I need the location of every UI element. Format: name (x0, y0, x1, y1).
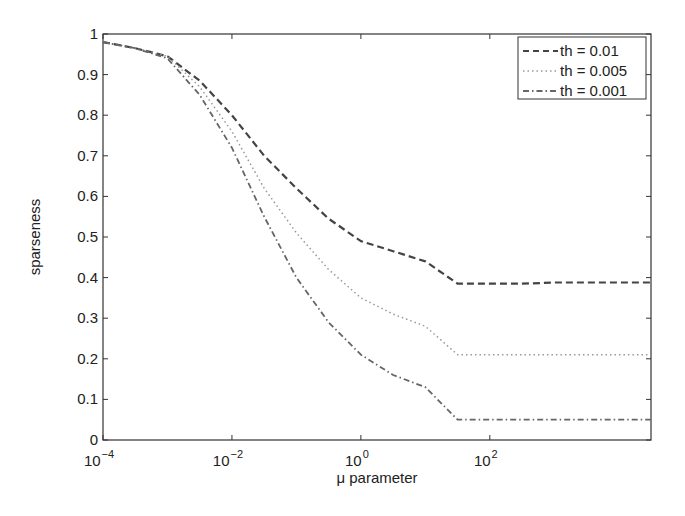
x-tick-label: 10−2 (213, 448, 243, 469)
y-tick-label: 0.4 (77, 269, 98, 286)
y-tick-label: 0.9 (77, 66, 98, 83)
chart-canvas: 00.10.20.30.40.50.60.70.80.91 10−410−210… (0, 0, 685, 516)
y-tick-label: 0.3 (77, 309, 98, 326)
x-axis-label: μ parameter (336, 469, 417, 486)
y-tick-label: 0.2 (77, 350, 98, 367)
y-axis-label: sparseness (26, 199, 43, 276)
y-tick-label: 0.6 (77, 187, 98, 204)
y-tick-label: 1 (90, 25, 98, 42)
x-tick-label: 100 (345, 448, 369, 469)
y-tick-label: 0.7 (77, 147, 98, 164)
legend-label-th-0.001: th = 0.001 (560, 82, 627, 99)
y-tick-label: 0.1 (77, 390, 98, 407)
legend: th = 0.01 th = 0.005 th = 0.001 (518, 37, 646, 99)
y-tick-label: 0 (90, 431, 98, 448)
x-tick-label: 102 (474, 448, 498, 469)
legend-label-th-0.005: th = 0.005 (560, 62, 627, 79)
x-tick-label: 10−4 (84, 448, 114, 469)
y-tick-label: 0.5 (77, 228, 98, 245)
y-tick-label: 0.8 (77, 106, 98, 123)
legend-label-th-0.01: th = 0.01 (560, 42, 619, 59)
